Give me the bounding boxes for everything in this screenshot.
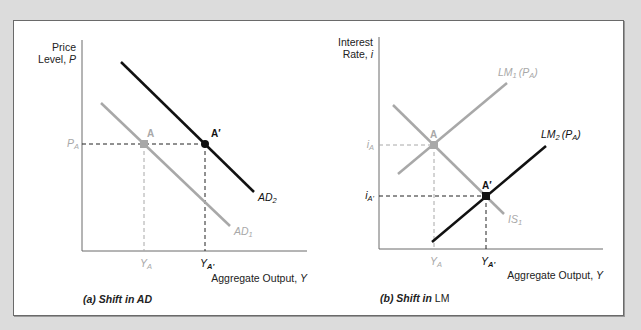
chart-a-ytick-pa: PA bbox=[67, 137, 79, 151]
chart-a-xlabel: Aggregate Output, Y bbox=[211, 272, 308, 284]
ad1-label: AD1 bbox=[233, 225, 253, 239]
chart-a-ylabel-line2: Level, P bbox=[38, 53, 76, 65]
chart-a-point-a-label: A bbox=[147, 128, 154, 139]
chart-b-point-a bbox=[430, 141, 438, 149]
chart-b-point-a-prime-label: A′ bbox=[482, 180, 492, 191]
figure-canvas: Price Level, P A A′ PA AD1 AD2 YA YA' Ag… bbox=[0, 0, 641, 330]
chart-b-xlabel: Aggregate Output, Y bbox=[507, 269, 604, 281]
ad1-curve bbox=[101, 103, 230, 226]
chart-a-xtick-ya: YA bbox=[140, 257, 152, 271]
lm2-label: LM2(PA) bbox=[541, 128, 581, 142]
chart-b-xtick-ya-prime: YA' bbox=[481, 255, 495, 269]
chart-b-ylabel-line1: Interest bbox=[338, 36, 373, 48]
lm1-curve bbox=[398, 83, 507, 174]
lm1-label: LM1(PA) bbox=[498, 66, 538, 80]
chart-b-ylabel-line2: Rate, i bbox=[343, 48, 374, 60]
chart-a-xtick-ya-prime: YA' bbox=[200, 257, 214, 271]
ad2-curve bbox=[121, 62, 254, 192]
chart-b-point-a-prime bbox=[482, 192, 490, 200]
is1-label: IS1 bbox=[508, 213, 522, 227]
chart-a-ylabel-line1: Price bbox=[52, 41, 76, 53]
chart-a-caption: (a) Shift in AD bbox=[83, 293, 152, 305]
chart-a-point-a-prime bbox=[201, 140, 209, 148]
chart-a: Price Level, P A A′ PA AD1 AD2 YA YA' Ag… bbox=[38, 40, 308, 305]
chart-b-caption: (b) Shift in LM bbox=[380, 292, 449, 304]
chart-b-point-a-label: A bbox=[430, 129, 437, 140]
chart-b-ytick-ia-prime: iA' bbox=[365, 189, 374, 203]
chart-b-xtick-ya: YA bbox=[430, 255, 442, 269]
chart-b: Interest Rate, i A A′ iA iA' IS1 LM1(PA)… bbox=[338, 36, 604, 304]
chart-b-ytick-ia: iA bbox=[367, 138, 374, 152]
ad2-label: AD2 bbox=[257, 191, 278, 205]
chart-a-point-a-prime-label: A′ bbox=[211, 128, 221, 139]
chart-a-point-a bbox=[140, 140, 148, 148]
